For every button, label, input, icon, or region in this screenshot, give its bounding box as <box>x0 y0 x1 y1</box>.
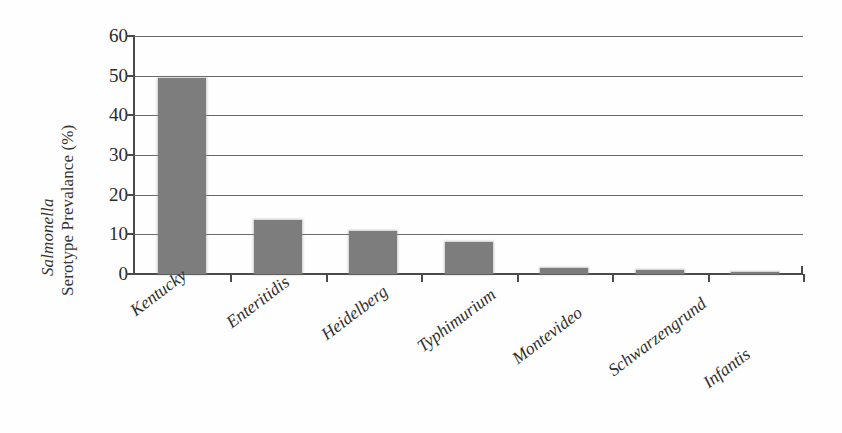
bar <box>254 220 302 274</box>
gridline <box>133 195 803 196</box>
y-axis-tick-label: 50 <box>86 66 128 85</box>
x-axis-tick-mark <box>708 274 710 282</box>
y-axis-tick-mark <box>126 114 134 116</box>
y-axis-tick-mark <box>126 154 134 156</box>
x-axis-tick-mark <box>517 274 519 282</box>
bar <box>349 231 397 274</box>
x-axis-tick-mark <box>803 274 805 282</box>
x-axis-right-end-tick <box>801 266 803 275</box>
x-axis-tick-mark <box>612 274 614 282</box>
plot-area <box>133 36 803 274</box>
y-axis-title-line-species: Salmonella <box>38 199 58 277</box>
y-axis-title-line-measure: Serotype Prevalance (%) <box>58 125 78 296</box>
x-axis-category-label: Montevideo <box>508 302 587 368</box>
x-axis-tick-labels: KentuckyEnteritidisHeidelbergTyphimurium… <box>0 286 842 426</box>
y-axis-tick-label: 30 <box>86 145 128 164</box>
y-axis-tick-mark <box>126 194 134 196</box>
y-axis-tick-labels: 0102030405060 <box>86 36 128 274</box>
x-axis-tick-mark <box>421 274 423 282</box>
x-axis-tick-mark <box>230 274 232 282</box>
gridline <box>133 115 803 116</box>
y-axis-tick-label: 10 <box>86 224 128 243</box>
x-axis-category-label: Infantis <box>699 344 754 393</box>
y-axis-tick-label: 0 <box>86 264 128 283</box>
y-axis-tick-mark <box>126 35 134 37</box>
x-axis-category-label: Heidelberg <box>317 281 392 345</box>
gridline <box>133 155 803 156</box>
gridline <box>133 234 803 235</box>
bar <box>445 242 493 274</box>
y-axis-title: Salmonella Serotype Prevalance (%) <box>14 18 86 288</box>
y-axis-tick-mark <box>126 75 134 77</box>
gridline <box>133 76 803 77</box>
chart-figure: Salmonella Serotype Prevalance (%) 01020… <box>0 0 842 433</box>
x-axis-tick-marks <box>133 274 805 284</box>
y-axis-tick-label: 20 <box>86 185 128 204</box>
x-axis-category-label: Typhimurium <box>413 284 500 357</box>
y-axis-tick-mark <box>126 233 134 235</box>
bar <box>158 78 206 274</box>
y-axis-tick-label: 40 <box>86 105 128 124</box>
gridline <box>133 36 803 37</box>
x-axis-tick-mark <box>326 274 328 282</box>
y-axis-tick-label: 60 <box>86 26 128 45</box>
x-axis-category-label: Schwarzengrund <box>604 293 711 381</box>
